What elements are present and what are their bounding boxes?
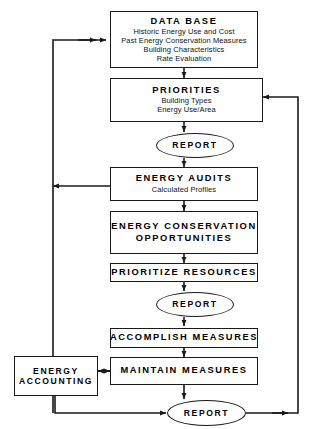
node-energy-audits-lines: Calculated Profiles <box>152 186 216 195</box>
node-data-base-title: DATA BASE <box>151 16 218 27</box>
flowchart-diagram: DATA BASE Historic Energy Use and Cost P… <box>0 0 326 429</box>
node-report-3: REPORT <box>167 400 246 426</box>
node-report-2-title: REPORT <box>172 299 217 309</box>
node-eco-title-line-1: ENERGY CONSERVATION <box>111 221 256 232</box>
node-data-base-lines: Historic Energy Use and Cost Past Energy… <box>121 28 246 63</box>
node-priorities-lines: Building Types Energy Use/Area <box>157 97 216 115</box>
node-energy-accounting-title-line-1: ENERGY <box>33 366 79 376</box>
node-report-2: REPORT <box>156 292 234 317</box>
node-energy-accounting-title-line-2: ACCOUNTING <box>19 376 93 386</box>
node-energy-audits: ENERGY AUDITS Calculated Profiles <box>110 167 258 201</box>
node-energy-conservation-opportunities: ENERGY CONSERVATION OPPORTUNITIES <box>110 211 258 254</box>
node-energy-accounting: ENERGY ACCOUNTING <box>14 356 98 396</box>
node-prioritize-resources: PRIORITIZE RESOURCES <box>110 263 258 282</box>
node-report-1: REPORT <box>156 133 234 158</box>
node-report-1-title: REPORT <box>172 140 217 150</box>
node-accomplish-measures-title: ACCOMPLISH MEASURES <box>110 332 258 343</box>
node-maintain-measures: MAINTAIN MEASURES <box>110 357 258 385</box>
edge-accounting-to-report3 <box>55 396 166 413</box>
node-report-3-title: REPORT <box>184 408 229 418</box>
node-energy-audits-title: ENERGY AUDITS <box>136 173 233 184</box>
node-priorities: PRIORITIES Building Types Energy Use/Are… <box>110 78 263 122</box>
node-priorities-line-2: Energy Use/Area <box>157 106 216 115</box>
node-prioritize-resources-title: PRIORITIZE RESOURCES <box>111 267 257 278</box>
node-priorities-title: PRIORITIES <box>152 85 221 96</box>
node-data-base-line-4: Rate Evaluation <box>157 55 211 64</box>
node-maintain-measures-title: MAINTAIN MEASURES <box>120 365 247 376</box>
node-data-base: DATA BASE Historic Energy Use and Cost P… <box>110 11 258 68</box>
node-accomplish-measures: ACCOMPLISH MEASURES <box>110 328 258 348</box>
node-energy-audits-line-1: Calculated Profiles <box>152 186 216 195</box>
node-eco-title-line-2: OPPORTUNITIES <box>136 233 233 244</box>
